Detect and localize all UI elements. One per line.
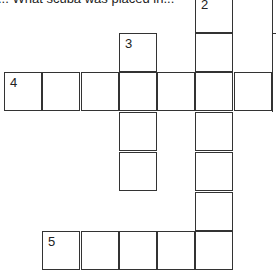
- crossword-cell-2[interactable]: 2: [195, 0, 233, 33]
- crossword-cell[interactable]: [157, 72, 195, 111]
- cell-letter-input[interactable]: [82, 232, 118, 269]
- crossword-cell[interactable]: [119, 72, 157, 111]
- crossword-cell[interactable]: [157, 231, 195, 270]
- cell-letter-input[interactable]: [120, 153, 156, 190]
- cell-letter-input[interactable]: [43, 73, 79, 110]
- offscreen-cell-divider: [272, 33, 276, 34]
- crossword-cell[interactable]: [195, 231, 233, 270]
- cell-letter-input[interactable]: [158, 73, 194, 110]
- cell-letter-input[interactable]: [196, 232, 232, 269]
- crossword-cell[interactable]: [195, 192, 233, 231]
- cell-letter-input[interactable]: [158, 232, 194, 269]
- crossword-cell[interactable]: [119, 231, 157, 270]
- cell-letter-input[interactable]: [196, 34, 232, 71]
- crossword-cell[interactable]: [195, 72, 233, 111]
- cell-letter-input[interactable]: [196, 0, 232, 32]
- cell-letter-input[interactable]: [235, 73, 271, 110]
- cell-letter-input[interactable]: [120, 113, 156, 150]
- crossword-cell-4[interactable]: 4: [4, 72, 42, 111]
- crossword-cell[interactable]: [81, 72, 119, 111]
- crossword-cell[interactable]: [195, 112, 233, 151]
- cell-letter-input[interactable]: [196, 113, 232, 150]
- crossword-cell[interactable]: [81, 231, 119, 270]
- offscreen-column-edge: [272, 0, 273, 112]
- cell-letter-input[interactable]: [196, 73, 232, 110]
- cell-letter-input[interactable]: [5, 73, 41, 110]
- crossword-cell[interactable]: [195, 152, 233, 191]
- cell-letter-input[interactable]: [43, 232, 79, 269]
- cell-letter-input[interactable]: [120, 73, 156, 110]
- crossword-cell-5[interactable]: 5: [42, 231, 80, 270]
- cell-letter-input[interactable]: [196, 193, 232, 230]
- crossword-cell[interactable]: [42, 72, 80, 111]
- cell-letter-input[interactable]: [120, 34, 156, 71]
- clue-text: ... What scuba was placed in...: [0, 0, 174, 6]
- crossword-cell[interactable]: [195, 33, 233, 72]
- crossword-cell[interactable]: [119, 152, 157, 191]
- crossword-cell[interactable]: [234, 72, 272, 111]
- cell-letter-input[interactable]: [82, 73, 118, 110]
- crossword-cell[interactable]: [119, 112, 157, 151]
- cell-letter-input[interactable]: [120, 232, 156, 269]
- cell-letter-input[interactable]: [196, 153, 232, 190]
- crossword-cell-3[interactable]: 3: [119, 33, 157, 72]
